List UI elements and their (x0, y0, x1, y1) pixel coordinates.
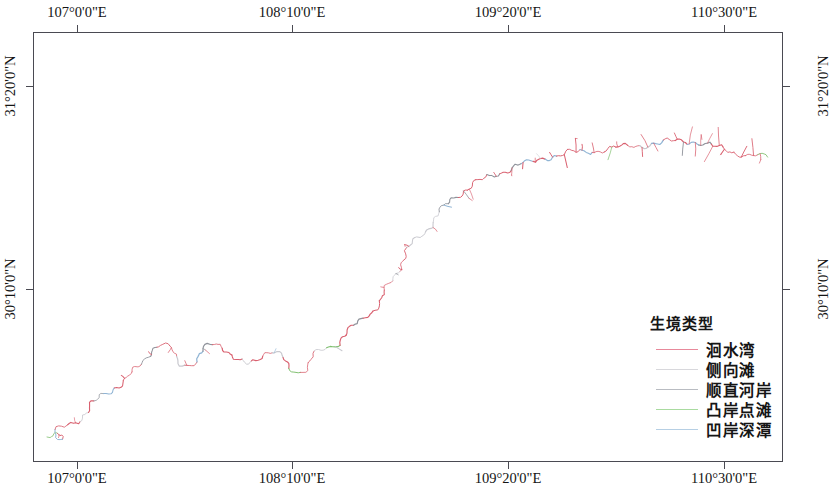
legend-label-1: 侧向滩 (706, 358, 756, 380)
axis-label-top-1: 108°10'0"E (259, 4, 326, 21)
legend-label-0: 洄水湾 (706, 338, 756, 360)
legend: 生境类型 洄水湾侧向滩顺直河岸凸岸点滩凹岸深潭 (640, 308, 780, 445)
tick-right-1 (782, 289, 790, 290)
legend-swatch-0 (656, 349, 698, 350)
legend-item-3[interactable]: 凸岸点滩 (656, 399, 774, 419)
axis-label-left-1: 30°10'0"N (2, 258, 19, 319)
tick-top-3 (724, 25, 725, 33)
legend-label-2: 顺直河岸 (706, 378, 772, 400)
legend-item-0[interactable]: 洄水湾 (656, 339, 774, 359)
axis-label-right-1: 30°10'0"N (815, 258, 832, 319)
axis-label-bottom-3: 110°30'0"E (691, 470, 757, 487)
tick-right-0 (782, 86, 790, 87)
legend-swatch-2 (656, 389, 698, 390)
axis-label-top-2: 109°20'0"E (475, 4, 542, 21)
axis-label-right-0: 31°20'0"N (815, 55, 832, 116)
tick-bottom-2 (508, 461, 509, 469)
tick-left-0 (26, 86, 34, 87)
axis-label-left-0: 31°20'0"N (2, 55, 19, 116)
legend-title: 生境类型 (650, 312, 774, 333)
axis-label-bottom-2: 109°20'0"E (475, 470, 542, 487)
legend-item-4[interactable]: 凹岸深潭 (656, 419, 774, 439)
tick-top-0 (77, 25, 78, 33)
legend-label-4: 凹岸深潭 (706, 418, 772, 440)
tick-top-2 (508, 25, 509, 33)
tick-bottom-3 (724, 461, 725, 469)
tick-bottom-1 (292, 461, 293, 469)
legend-item-2[interactable]: 顺直河岸 (656, 379, 774, 399)
legend-label-3: 凸岸点滩 (706, 398, 772, 420)
axis-label-bottom-1: 108°10'0"E (259, 470, 326, 487)
axis-label-top-0: 107°0'0"E (47, 4, 106, 21)
tick-left-1 (26, 289, 34, 290)
legend-swatch-1 (656, 369, 698, 370)
legend-swatch-4 (656, 429, 698, 430)
axis-label-top-3: 110°30'0"E (691, 4, 757, 21)
legend-item-1[interactable]: 侧向滩 (656, 359, 774, 379)
tick-top-1 (292, 25, 293, 33)
axis-label-bottom-0: 107°0'0"E (47, 470, 106, 487)
legend-swatch-3 (656, 409, 698, 410)
tick-bottom-0 (77, 461, 78, 469)
